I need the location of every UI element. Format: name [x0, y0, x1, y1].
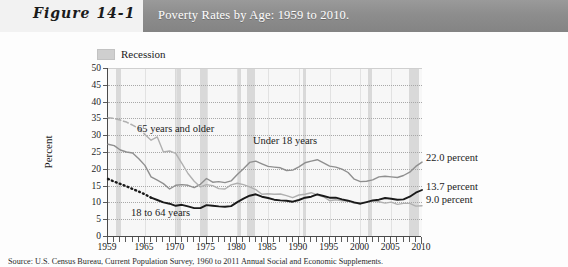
x-axis-tick: [378, 237, 379, 242]
x-axis-tick: [255, 237, 256, 242]
series-inline-label: Under 18 years: [253, 135, 317, 146]
y-axis-tick: [103, 202, 107, 203]
series-inline-label: 18 to 64 years: [131, 207, 190, 218]
x-axis-tick: [132, 237, 133, 242]
y-axis-tick: [103, 85, 107, 86]
y-axis-tick: [103, 219, 107, 220]
x-axis-label: 1965: [134, 242, 153, 252]
y-axis-tick: [103, 169, 107, 170]
x-axis-tick: [125, 237, 126, 242]
figure-caption: Source: U.S. Census Bureau, Current Popu…: [8, 257, 564, 267]
y-axis-label: 10: [79, 197, 101, 207]
x-axis-label: 1980: [227, 242, 246, 252]
x-axis-label: 2000: [350, 242, 369, 252]
x-axis-tick: [403, 237, 404, 242]
y-axis-label: 35: [79, 113, 101, 123]
x-axis-tick: [372, 237, 373, 242]
x-axis-label: 2005: [381, 242, 400, 252]
x-axis-tick: [156, 237, 157, 242]
series-line: [108, 144, 422, 189]
y-axis-label: 15: [79, 181, 101, 191]
x-axis-tick: [193, 237, 194, 242]
x-axis-label: 2010: [412, 242, 431, 252]
y-axis-tick: [103, 186, 107, 187]
x-axis-tick: [310, 237, 311, 242]
y-axis-title: Percent: [42, 136, 54, 169]
x-axis-tick: [218, 237, 219, 242]
y-axis-tick: [103, 135, 107, 136]
series-end-value-label: 13.7 percent: [426, 181, 478, 192]
series-line: [151, 190, 422, 208]
y-axis-label: 5: [79, 214, 101, 224]
series-end-value-label: 9.0 percent: [426, 194, 473, 205]
x-axis-line: [107, 236, 421, 237]
x-axis-tick: [249, 237, 250, 242]
y-axis-label: 0: [79, 231, 101, 241]
y-axis-label: 45: [79, 80, 101, 90]
x-axis-label: 1985: [258, 242, 277, 252]
x-axis-label: 1970: [165, 242, 184, 252]
x-axis-tick: [286, 237, 287, 242]
x-axis-tick: [187, 237, 188, 242]
x-axis-label: 1959: [98, 242, 117, 252]
y-axis-label: 40: [79, 97, 101, 107]
x-axis-tick: [224, 237, 225, 242]
x-axis-tick: [347, 237, 348, 242]
y-axis-tick: [103, 102, 107, 103]
y-axis-tick: [103, 152, 107, 153]
x-axis-tick: [409, 237, 410, 242]
figure-page: Figure 14-1 Poverty Rates by Age: 1959 t…: [0, 0, 568, 267]
series-inline-label: 65 years and older: [137, 123, 214, 134]
y-axis-label: 25: [79, 147, 101, 157]
x-axis-tick: [341, 237, 342, 242]
x-axis-label: 1990: [288, 242, 307, 252]
x-axis-label: 1975: [196, 242, 215, 252]
x-axis-tick: [279, 237, 280, 242]
y-axis-tick: [103, 68, 107, 69]
series-end-value-label: 22.0 percent: [426, 152, 478, 163]
x-axis-tick: [119, 237, 120, 242]
y-axis-tick: [103, 236, 107, 237]
x-axis-label: 1995: [319, 242, 338, 252]
poverty-rate-chart: Percent 19591965197019751980198519901995…: [0, 0, 568, 250]
x-axis-tick: [316, 237, 317, 242]
x-axis-tick: [162, 237, 163, 242]
y-axis-label: 50: [79, 63, 101, 73]
y-axis-label: 20: [79, 164, 101, 174]
y-axis-tick: [103, 118, 107, 119]
y-axis-label: 30: [79, 130, 101, 140]
series-line: [108, 179, 151, 198]
